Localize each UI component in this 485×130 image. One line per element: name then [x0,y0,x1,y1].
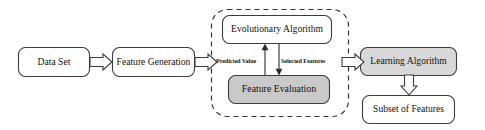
arrowhead-down-selected-features [276,69,283,76]
node-box-learning-algorithm[interactable] [361,48,457,76]
node-box-feature-generation[interactable] [113,48,195,77]
node-box-data-set[interactable] [19,48,90,77]
node-box-evolutionary-algorithm[interactable] [223,16,332,44]
arrowhead-up-predicted-value [262,44,269,51]
node-box-subset-of-features[interactable] [363,96,455,124]
node-box-feature-evaluation[interactable] [229,76,330,104]
arrow-featuregen-to-group [195,54,217,70]
diagram-graphics [0,0,485,130]
arrow-learning-to-subset [401,75,417,95]
arrow-dataset-to-featuregen [90,54,112,70]
diagram-canvas: Data Set Feature Generation Evolutionary… [0,0,485,130]
